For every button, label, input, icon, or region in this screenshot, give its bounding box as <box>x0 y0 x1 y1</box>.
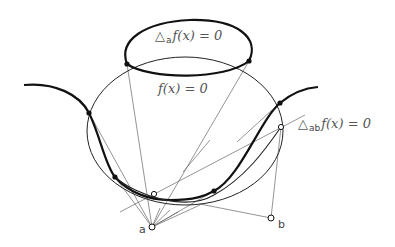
point-a-label: a <box>139 224 146 235</box>
label-delta-ab: △abf(x) = 0 <box>298 117 371 130</box>
point-a-marker <box>149 224 155 230</box>
dot <box>246 58 251 63</box>
delta-symbol: △ <box>155 28 165 43</box>
hollow-dot <box>151 191 156 196</box>
expression: f(x) = 0 <box>158 81 208 96</box>
dot <box>112 174 117 179</box>
subscript-ab: ab <box>309 123 320 133</box>
delta-symbol: △ <box>298 116 308 131</box>
ellipse <box>87 57 283 205</box>
subscript-a: a <box>166 35 172 45</box>
dot <box>86 110 91 115</box>
label-delta-a: △af(x) = 0 <box>155 29 222 42</box>
expression: f(x) = 0 <box>321 116 371 131</box>
dot <box>277 100 282 105</box>
point-b-label: b <box>278 219 285 230</box>
dot <box>124 61 129 66</box>
hollow-dot <box>278 124 283 129</box>
hollow-points <box>149 124 284 230</box>
dot <box>211 188 216 193</box>
point-b-marker <box>268 215 274 221</box>
expression: f(x) = 0 <box>173 28 223 43</box>
main-curve <box>24 85 318 200</box>
label-f-zero: f(x) = 0 <box>158 82 208 95</box>
